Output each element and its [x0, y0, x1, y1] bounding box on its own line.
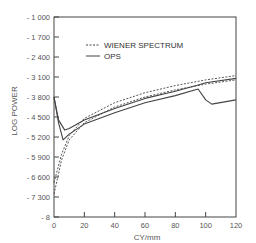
x-tick-label: 40 — [110, 221, 118, 230]
x-axis-title: CY/mm — [134, 233, 161, 242]
x-tick-label: 100 — [199, 221, 212, 230]
x-tick-label: 60 — [141, 221, 149, 230]
x-tick-label: 0 — [52, 221, 56, 230]
y-tick-label: - 1 000 — [27, 13, 50, 22]
x-tick-label: 120 — [230, 221, 243, 230]
y-tick-label: - 3 100 — [27, 73, 50, 82]
y-tick-label: - 3 800 — [27, 93, 50, 102]
ops-line — [54, 89, 236, 140]
wiener-spectrum-line — [54, 80, 236, 194]
y-tick-label: - 1 700 — [27, 33, 50, 42]
legend: WIENER SPECTRUMOPS — [86, 41, 183, 61]
legend-label: OPS — [104, 52, 121, 61]
wiener-spectrum-line — [54, 76, 236, 183]
log-power-chart: - 1 000- 1 700- 2 400- 3 100- 3 800- 4 5… — [0, 0, 256, 243]
x-tick-label: 80 — [171, 221, 179, 230]
y-tick-label: - 2 400 — [27, 53, 50, 62]
y-tick-label: - 4 500 — [27, 113, 50, 122]
y-axis-title: LOG POWER — [10, 86, 19, 136]
y-tick-label: - 5 900 — [27, 153, 50, 162]
y-tick-label: - 5 200 — [27, 133, 50, 142]
series-group — [54, 76, 236, 195]
y-tick-label: - 8 — [41, 213, 50, 222]
y-tick-label: - 6 600 — [27, 173, 50, 182]
y-tick-label: - 7 300 — [27, 193, 50, 202]
x-tick-label: 20 — [80, 221, 88, 230]
x-axis: 020406080100120 — [52, 212, 242, 230]
legend-label: WIENER SPECTRUM — [104, 41, 183, 50]
